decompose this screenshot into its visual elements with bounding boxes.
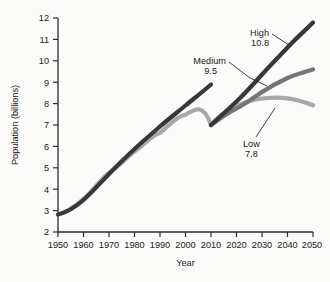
- y-tick-label-3: 3: [44, 206, 49, 216]
- y-tick-label-8: 8: [44, 99, 49, 109]
- y-tick-label-12: 12: [39, 13, 49, 23]
- annotation-high-value: 10.8: [251, 38, 269, 48]
- x-tick-label-1960: 1960: [73, 240, 93, 250]
- x-axis-title: Year: [176, 258, 195, 268]
- y-tick-label-5: 5: [44, 163, 49, 173]
- y-tick-label-10: 10: [39, 56, 49, 66]
- x-tick-label-1990: 1990: [150, 240, 170, 250]
- chart-svg: 12 11 10 9 8 7 6 5 4 3 2 1950 1960 1970 …: [0, 0, 330, 282]
- population-projection-chart: 12 11 10 9 8 7 6 5 4 3 2 1950 1960 1970 …: [0, 0, 330, 282]
- x-tick-label-2040: 2040: [277, 240, 297, 250]
- x-tick-label-2020: 2020: [226, 240, 246, 250]
- x-tick-label-1980: 1980: [124, 240, 144, 250]
- y-tick-label-4: 4: [44, 185, 49, 195]
- x-tick-label-1950: 1950: [48, 240, 68, 250]
- annotation-low-value: 7.8: [245, 149, 258, 159]
- y-tick-label-6: 6: [44, 142, 49, 152]
- annotation-medium-value: 9.5: [204, 66, 217, 76]
- x-tick-label-2050: 2050: [302, 240, 322, 250]
- y-tick-label-7: 7: [44, 120, 49, 130]
- x-tick-label-2030: 2030: [252, 240, 272, 250]
- x-tick-label-1970: 1970: [99, 240, 119, 250]
- x-tick-label-2010: 2010: [201, 240, 221, 250]
- annotation-medium-label: Medium: [193, 56, 226, 66]
- y-tick-label-11: 11: [39, 35, 49, 45]
- y-axis-title: Population (billions): [10, 85, 20, 165]
- y-tick-label-2: 2: [44, 227, 49, 237]
- y-tick-label-9: 9: [44, 78, 49, 88]
- x-tick-label-2000: 2000: [175, 240, 195, 250]
- annotation-low-label: Low: [243, 139, 260, 149]
- annotation-high-label: High: [250, 28, 269, 38]
